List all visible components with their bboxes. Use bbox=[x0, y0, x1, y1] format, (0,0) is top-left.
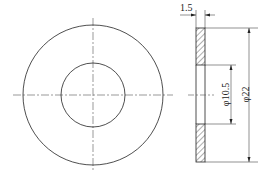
thickness-label: 1.5 bbox=[180, 2, 193, 13]
front-view bbox=[13, 18, 173, 172]
section-bottom bbox=[196, 124, 205, 162]
outer-diameter-label: φ22 bbox=[240, 75, 251, 115]
inner-diameter-label: φ10.5 bbox=[220, 75, 231, 115]
section-top bbox=[196, 28, 205, 65]
